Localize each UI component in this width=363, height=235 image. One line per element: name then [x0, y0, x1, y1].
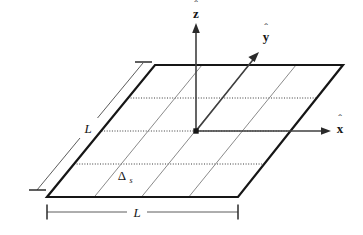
z-axis-label: z [193, 6, 199, 21]
cell-spacing-label: Δ [118, 168, 126, 183]
y-axis-arrowhead [248, 52, 259, 62]
x-axis-arrowhead [321, 127, 331, 134]
x-axis-label: x [337, 121, 344, 136]
left-dimension-label: L [83, 121, 91, 136]
bottom-dimension: L [47, 205, 238, 221]
grid-d-line-1 [94, 65, 202, 197]
axes [192, 23, 331, 135]
axis-labels: ˆ z ˆ y ˆ x [193, 0, 344, 136]
left-dimension: L [29, 62, 152, 190]
cell-spacing-annotation: Δ s [118, 168, 133, 185]
figure-container: ˆ z ˆ y ˆ x L L [0, 0, 363, 235]
left-dimension-line-upper [98, 63, 144, 118]
y-axis-line [196, 59, 253, 131]
bottom-dimension-label: L [132, 205, 140, 220]
plane-discretization-diagram: ˆ z ˆ y ˆ x L L [0, 0, 363, 235]
cell-spacing-subscript: s [129, 176, 132, 185]
z-axis-arrowhead [192, 23, 200, 33]
origin-marker [193, 128, 198, 133]
y-axis-label: y [263, 29, 270, 44]
